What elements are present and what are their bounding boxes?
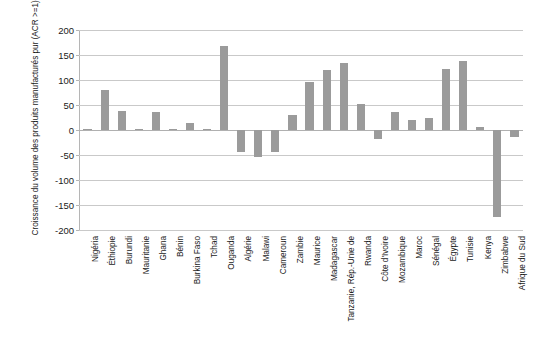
bar xyxy=(254,130,262,157)
y-tick-label: 100 xyxy=(58,75,74,86)
y-tick-mark xyxy=(76,80,79,81)
y-axis-title: Croissance du volume des produits manufa… xyxy=(18,20,54,235)
bar xyxy=(305,82,313,130)
bar xyxy=(476,127,484,130)
plot-area: 200150100500-50-100-150-200 xyxy=(79,30,523,230)
bar xyxy=(101,90,109,130)
x-tick-label: Maurice xyxy=(313,236,322,265)
x-tick-label: Madagascar xyxy=(330,236,339,281)
bar xyxy=(169,129,177,131)
x-tick-label: Zimbabwe xyxy=(501,236,510,274)
y-tick-label: -150 xyxy=(55,200,74,211)
x-tick-label: Tanzanie, Rép.-Unie de xyxy=(347,236,356,322)
gridline xyxy=(79,155,523,156)
x-tick-label: Rwanda xyxy=(364,236,373,266)
bar xyxy=(152,112,160,130)
x-tick-label: Mauritanie xyxy=(142,236,151,274)
bar xyxy=(186,123,194,130)
x-tick-label: Algérie xyxy=(244,236,253,262)
x-tick-label: Sénégal xyxy=(432,236,441,266)
y-tick-mark xyxy=(76,30,79,31)
gridline xyxy=(79,205,523,206)
y-tick-mark xyxy=(76,205,79,206)
y-tick-label: -50 xyxy=(60,150,74,161)
bar xyxy=(340,63,348,131)
x-tick-label: Maroc xyxy=(415,236,424,259)
y-tick-label: 200 xyxy=(58,25,74,36)
x-tick-label: Côte d'Ivoire xyxy=(381,236,390,282)
y-tick-mark xyxy=(76,55,79,56)
y-tick-mark xyxy=(76,230,79,231)
bar xyxy=(459,61,467,130)
x-tick-label: Kenya xyxy=(484,236,493,259)
y-tick-label: -100 xyxy=(55,175,74,186)
gridline xyxy=(79,30,523,31)
x-tick-label: Burundi xyxy=(125,236,134,264)
x-tick-label: Cameroun xyxy=(279,236,288,274)
x-tick-label: Ouganda xyxy=(227,236,236,270)
bar xyxy=(374,130,382,139)
x-tick-label: Bénin xyxy=(176,236,185,257)
y-tick-label: 0 xyxy=(69,125,74,136)
gridline xyxy=(79,105,523,106)
bar xyxy=(271,130,279,152)
bar xyxy=(357,104,365,130)
gridline xyxy=(79,230,523,231)
x-tick-label: Mozambique xyxy=(398,236,407,283)
bar xyxy=(323,70,331,130)
x-tick-label: Tchad xyxy=(210,236,219,258)
bar xyxy=(220,46,228,130)
y-tick-label: -200 xyxy=(55,225,74,236)
x-tick-label: Éthiopie xyxy=(108,236,117,266)
bar xyxy=(288,115,296,130)
bar xyxy=(237,130,245,152)
x-tick-label: Égypte xyxy=(449,236,458,262)
bar xyxy=(425,118,433,130)
y-tick-label: 50 xyxy=(63,100,74,111)
bar xyxy=(391,112,399,130)
x-tick-label: Malawi xyxy=(262,236,271,261)
x-tick-label: Burkina Faso xyxy=(193,236,202,284)
chart-figure: Croissance du volume des produits manufa… xyxy=(0,0,541,358)
y-tick-mark xyxy=(76,130,79,131)
x-tick-label: Afrique du Sud xyxy=(518,236,527,290)
gridline xyxy=(79,180,523,181)
bar xyxy=(118,111,126,130)
bar xyxy=(203,129,211,130)
bar xyxy=(408,120,416,130)
gridline xyxy=(79,55,523,56)
x-tick-label: Tunisie xyxy=(466,236,475,262)
bar xyxy=(83,129,91,131)
y-axis-title-text: Croissance du volume des produits manufa… xyxy=(31,20,42,235)
y-tick-mark xyxy=(76,105,79,106)
x-tick-label: Ghana xyxy=(159,236,168,261)
bar xyxy=(442,69,450,130)
bar xyxy=(135,129,143,130)
x-tick-label: Zambie xyxy=(296,236,305,263)
x-tick-label: Nigéria xyxy=(91,236,100,262)
bar xyxy=(493,130,501,217)
bar xyxy=(510,130,518,137)
y-tick-mark xyxy=(76,155,79,156)
zero-line xyxy=(79,130,523,131)
y-tick-mark xyxy=(76,180,79,181)
y-tick-label: 150 xyxy=(58,50,74,61)
gridline xyxy=(79,80,523,81)
